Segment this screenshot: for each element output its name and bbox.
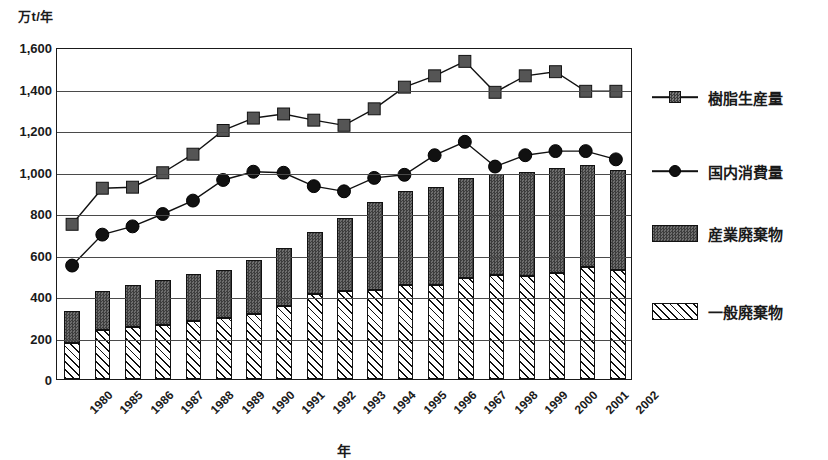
x-axis-tick-label: 1993 [360,388,389,417]
domestic-consumption-marker[interactable] [66,259,79,272]
lines-layer [57,49,631,379]
y-axis-tick-labels: 1,6001,4001,2001,0008006004002000 [2,0,52,460]
y-axis-tick-label: 0 [6,373,52,388]
resin-production-marker[interactable] [459,55,471,67]
x-axis-tick-label: 1999 [542,388,571,417]
resin-production-marker[interactable] [519,70,531,82]
legend-item[interactable]: 産業廃棄物 [652,220,783,246]
legend-item[interactable]: 国内消費量 [652,158,783,184]
resin-production-marker[interactable] [308,114,320,126]
x-axis-tick-label: 1991 [299,388,328,417]
resin-production-marker[interactable] [217,125,229,137]
chart-figure: 万t/年 1,6001,4001,2001,0008006004002000 年… [0,0,828,460]
x-axis-tick-label: 1995 [420,388,449,417]
y-axis-tick-label: 1,400 [6,82,52,97]
x-axis-tick-label: 2001 [602,388,631,417]
x-axis-tick-label: 1986 [148,388,177,417]
gridline [57,298,631,299]
resin-production-marker[interactable] [247,112,259,124]
circle-marker-icon [669,165,681,177]
domestic-consumption-marker[interactable] [579,145,592,158]
resin-production-line [72,61,616,224]
x-axis-tick-label: 1985 [117,388,146,417]
resin-production-marker[interactable] [127,181,139,193]
domestic-consumption-marker[interactable] [217,174,230,187]
domestic-consumption-marker[interactable] [428,149,441,162]
legend-item-label: 一般廃棄物 [708,301,783,322]
legend-dark-fill-icon [652,225,698,242]
domestic-consumption-marker[interactable] [398,168,411,181]
legend-line-square-icon [652,88,698,106]
gridline [57,91,631,92]
x-axis-tick-label: 1998 [511,388,540,417]
x-axis-tick-label: 1992 [329,388,358,417]
legend-line-circle-icon [652,162,698,180]
y-axis-tick-label: 800 [6,207,52,222]
chart-legend: 樹脂生産量国内消費量産業廃棄物一般廃棄物 [652,48,828,380]
domestic-consumption-marker[interactable] [96,228,109,241]
domestic-consumption-marker[interactable] [458,135,471,148]
legend-item-label: 国内消費量 [708,161,783,182]
resin-production-marker[interactable] [338,119,350,131]
domestic-consumption-marker[interactable] [156,208,169,221]
gridline [57,174,631,175]
gridline [57,132,631,133]
x-axis-tick-label: 1987 [178,388,207,417]
x-axis-tick-label: 1967 [481,388,510,417]
legend-item[interactable]: 樹脂生産量 [652,84,783,110]
y-axis-tick-label: 400 [6,290,52,305]
domestic-consumption-line [72,142,616,266]
x-axis-tick-label: 2000 [572,388,601,417]
resin-production-marker[interactable] [66,218,78,230]
domestic-consumption-marker[interactable] [247,165,260,178]
legend-item[interactable]: 一般廃棄物 [652,298,783,324]
domestic-consumption-marker[interactable] [489,160,502,173]
y-axis-tick-label: 1,200 [6,124,52,139]
gridline [57,215,631,216]
resin-production-marker[interactable] [187,148,199,160]
y-axis-tick-label: 600 [6,248,52,263]
legend-hatch-fill-icon [652,303,698,320]
domestic-consumption-marker[interactable] [549,145,562,158]
x-axis-tick-label: 1994 [390,388,419,417]
y-axis-tick-label: 1,600 [6,41,52,56]
x-axis-tick-label: 1980 [87,388,116,417]
legend-item-label: 産業廃棄物 [708,223,783,244]
y-axis-tick-label: 200 [6,331,52,346]
resin-production-marker[interactable] [429,70,441,82]
x-axis-tick-labels: 年 19801985198619871988198919901991199219… [56,384,632,444]
x-axis-tick-label: 1988 [208,388,237,417]
domestic-consumption-marker[interactable] [609,153,622,166]
domestic-consumption-marker[interactable] [186,194,199,207]
gridline [57,340,631,341]
domestic-consumption-marker[interactable] [307,180,320,193]
resin-production-marker[interactable] [549,66,561,78]
resin-production-marker[interactable] [96,182,108,194]
gridline [57,257,631,258]
resin-production-marker[interactable] [489,86,501,98]
plot-area [56,48,632,380]
domestic-consumption-marker[interactable] [126,220,139,233]
x-axis-tick-label: 1990 [269,388,298,417]
x-axis-tick-label: 1989 [239,388,268,417]
x-axis-tick-label: 2002 [633,388,662,417]
resin-production-marker[interactable] [368,103,380,115]
legend-item-label: 樹脂生産量 [708,87,783,108]
square-marker-icon [669,91,681,103]
x-axis-tick-label: 1996 [451,388,480,417]
domestic-consumption-marker[interactable] [519,149,532,162]
y-axis-tick-label: 1,000 [6,165,52,180]
x-axis-title: 年 [56,440,632,460]
resin-production-marker[interactable] [278,108,290,120]
domestic-consumption-marker[interactable] [338,185,351,198]
